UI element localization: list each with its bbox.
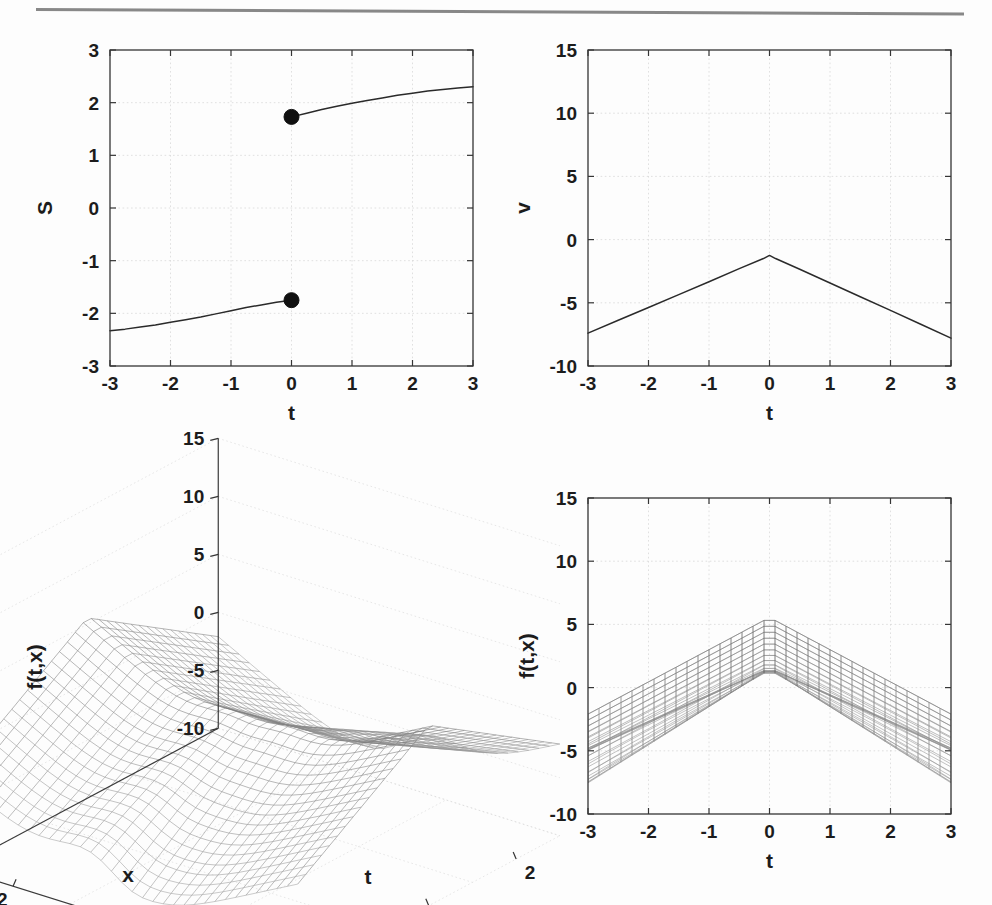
x-tick-label: -1 (223, 373, 240, 394)
mesh-col (28, 690, 370, 815)
z-tickmark (210, 496, 218, 498)
z-tick-label: -5 (187, 660, 204, 681)
wall-gridline (0, 670, 218, 810)
panel-bottom-left: -10-5051015-202-202xtf(t,x) (0, 452, 496, 905)
mesh-col (59, 652, 401, 776)
y-tick-label: 15 (556, 488, 578, 509)
mesh-col (67, 642, 409, 765)
y-tick-label: -5 (560, 293, 577, 314)
data-series-0 (588, 255, 951, 338)
wall-gridline (0, 438, 218, 578)
x-tick-label: 1 (825, 373, 836, 394)
y-axis-label: S (33, 201, 56, 215)
x-tick-label: 0 (764, 373, 775, 394)
y-tick-label: -3 (82, 356, 99, 377)
y-tick-label: -1 (82, 251, 99, 272)
x-tick-label: -2 (640, 373, 657, 394)
y-axis-label: v (511, 202, 534, 214)
page-header-rule (36, 8, 964, 16)
y-tick-label: 2 (88, 93, 99, 114)
z-tick-label: 10 (183, 486, 204, 507)
data-point-marker-0 (284, 109, 299, 124)
x-tick-label: -1 (701, 373, 718, 394)
x-tick-label: 2 (885, 821, 896, 842)
mesh-col (0, 748, 322, 875)
y-tick-label: -10 (550, 804, 577, 825)
data-series-0 (110, 300, 292, 331)
floor-gridline (0, 728, 218, 868)
y-tick-label: 3 (88, 40, 99, 61)
y-tick-label: 0 (566, 230, 577, 251)
figure-root: -3-2-10123-3-2-10123tS -3-2-10123-10-505… (0, 0, 992, 905)
x-tick-label: 3 (946, 373, 957, 394)
x-tick-label: 3 (468, 373, 479, 394)
mesh-row (39, 686, 301, 836)
data-series-1 (292, 87, 474, 117)
panel-top-left: -3-2-10123-3-2-10123tS (0, 24, 496, 452)
mesh-col (91, 619, 433, 741)
t-axis-label: t (365, 865, 372, 888)
x-tick-label: 1 (347, 373, 358, 394)
z-tick-label: 0 (194, 602, 205, 623)
z-tickmark (210, 612, 218, 614)
mesh-col (52, 661, 394, 785)
mesh-row (246, 737, 508, 896)
mesh-col (0, 767, 306, 895)
y-tick-label: 0 (566, 678, 577, 699)
x-axis-label: t (766, 849, 773, 872)
x-tick-label: 2 (407, 373, 418, 394)
z-tick-label: 15 (183, 428, 205, 449)
mesh-col (0, 757, 314, 885)
y-tick-label: 15 (556, 40, 578, 61)
floor-grid (0, 438, 560, 905)
y-tick-label: -5 (560, 741, 577, 762)
x-tick-label: -2 (162, 373, 179, 394)
mesh-row (111, 715, 373, 871)
x-tick-label: 0 (286, 373, 297, 394)
floor-gridline (184, 800, 446, 905)
x-tick-label: 0 (764, 821, 775, 842)
y-tick-label: 10 (556, 551, 577, 572)
x-tick-label: -3 (580, 821, 597, 842)
t-tickmark (426, 899, 429, 905)
z-tick-label: 5 (194, 544, 205, 565)
x-axis-label: t (766, 401, 773, 424)
x-tickmark (13, 879, 16, 886)
y-tick-label: 1 (88, 145, 99, 166)
y-tick-label: 10 (556, 103, 577, 124)
data-point-marker-1 (284, 293, 299, 308)
chart-v-vs-t: -3-2-10123-10-5051015tv (496, 24, 992, 452)
y-axis-label: f(t,x) (515, 633, 538, 679)
x-tick-label: 1 (825, 821, 836, 842)
mesh-col (36, 680, 378, 805)
x-axis-label: t (288, 401, 295, 424)
x-tick-label: 3 (946, 821, 957, 842)
x-tick-label: -2 (640, 821, 657, 842)
z-tickmark (210, 554, 218, 556)
y-tick-label: -2 (82, 303, 99, 324)
chart-surface-3d: -10-5051015-202-202xtf(t,x) (0, 452, 496, 905)
x-axis-label: x (122, 863, 134, 886)
y-tick-label: 0 (88, 198, 99, 219)
z-axis-label: f(t,x) (23, 644, 46, 690)
x-tick-label: -3 (102, 373, 119, 394)
y-tick-label: -10 (550, 356, 577, 377)
x-tick-label: -2 (0, 889, 8, 905)
x-tick-label: -1 (701, 821, 718, 842)
x-axis-line (0, 728, 218, 868)
wall-gridline (0, 496, 218, 636)
mesh-col (75, 632, 417, 755)
panel-top-right: -3-2-10123-10-5051015tv (496, 24, 992, 452)
x-tick-label: 2 (885, 373, 896, 394)
floor-gridline (44, 822, 386, 905)
panel-bottom-right: -3-2-10123-10-5051015tf(t,x) (496, 452, 992, 905)
z-tick-label: -10 (177, 718, 204, 739)
chart-surface-sideview: -3-2-10123-10-5051015tf(t,x) (496, 452, 992, 905)
x-tick-label: -3 (580, 373, 597, 394)
y-tick-label: 5 (566, 614, 577, 635)
wall-gridline (0, 728, 218, 868)
y-tick-label: 5 (566, 166, 577, 187)
chart-s-vs-t: -3-2-10123-3-2-10123tS (0, 24, 496, 452)
floor-gridline (131, 775, 473, 882)
mesh-surface (0, 619, 560, 905)
